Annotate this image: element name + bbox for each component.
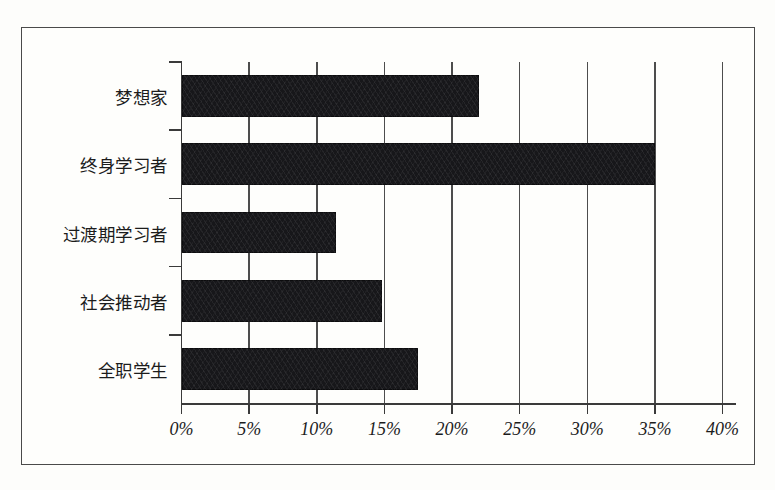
category-label: 终身学习者 bbox=[80, 152, 168, 177]
y-axis-tick bbox=[169, 334, 182, 336]
bar bbox=[182, 348, 419, 390]
x-axis-line bbox=[181, 403, 736, 405]
chart-page: 0%5%10%15%20%25%30%35%40%梦想家终身学习者过渡期学习者社… bbox=[0, 0, 775, 490]
gridline-vertical bbox=[587, 62, 589, 403]
x-axis-tick-label: 25% bbox=[503, 419, 536, 440]
plot-area: 0%5%10%15%20%25%30%35%40%梦想家终身学习者过渡期学习者社… bbox=[22, 28, 756, 466]
x-axis-tick bbox=[587, 403, 589, 414]
x-axis-tick bbox=[181, 403, 183, 414]
y-axis-tick bbox=[169, 198, 182, 200]
bar bbox=[182, 212, 336, 254]
x-axis-tick bbox=[384, 403, 386, 414]
gridline-vertical bbox=[519, 62, 521, 403]
x-axis-tick bbox=[722, 403, 724, 414]
gridline-vertical bbox=[654, 62, 656, 403]
x-axis-tick bbox=[451, 403, 453, 414]
x-axis-tick-label: 35% bbox=[638, 419, 671, 440]
bar bbox=[182, 75, 480, 117]
category-label: 全职学生 bbox=[98, 356, 168, 381]
gridline-vertical bbox=[722, 62, 724, 403]
x-axis-tick bbox=[654, 403, 656, 414]
category-label: 梦想家 bbox=[115, 84, 168, 109]
y-axis-tick bbox=[169, 61, 182, 63]
x-axis-tick-label: 30% bbox=[571, 419, 604, 440]
figure-frame: 0%5%10%15%20%25%30%35%40%梦想家终身学习者过渡期学习者社… bbox=[21, 27, 755, 465]
x-axis-tick bbox=[248, 403, 250, 414]
category-label: 社会推动者 bbox=[80, 288, 168, 313]
x-axis-tick-label: 40% bbox=[706, 419, 739, 440]
x-axis-tick-label: 10% bbox=[300, 419, 333, 440]
x-axis-tick bbox=[519, 403, 521, 414]
x-axis-tick-label: 20% bbox=[436, 419, 469, 440]
bar bbox=[182, 143, 655, 185]
x-axis-tick-label: 15% bbox=[368, 419, 401, 440]
y-axis-tick bbox=[169, 266, 182, 268]
category-label: 过渡期学习者 bbox=[63, 220, 168, 245]
x-axis-tick bbox=[316, 403, 318, 414]
x-axis-tick-label: 5% bbox=[237, 419, 261, 440]
y-axis-tick bbox=[169, 129, 182, 131]
bar bbox=[182, 280, 382, 322]
x-axis-tick-label: 0% bbox=[170, 419, 194, 440]
